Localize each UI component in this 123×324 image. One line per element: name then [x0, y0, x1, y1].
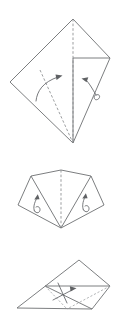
origami-diagram: Origami Folding Instructions — [0, 0, 123, 324]
diagram-canvas — [0, 0, 123, 324]
